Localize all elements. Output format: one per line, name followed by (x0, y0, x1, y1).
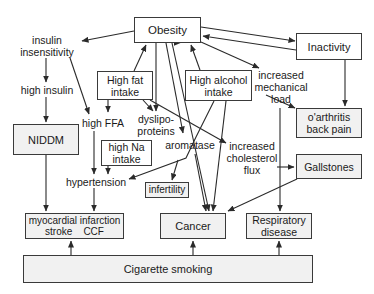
node-label: increased (258, 69, 304, 81)
arrow-obesity-insulin (82, 31, 134, 41)
node-label: NIDDM (28, 134, 64, 146)
node-increased-cholesterol-flux: increased cholesterol flux (226, 139, 278, 177)
node-label: cholesterol (227, 152, 278, 164)
node-gallstones: Gallstones (296, 154, 362, 179)
node-label: flux (244, 164, 260, 176)
node-label: infertility (149, 184, 186, 196)
node-label: intake (112, 153, 140, 165)
arrow-alcohol-cancer (213, 101, 226, 211)
node-label: mechanical (254, 81, 307, 93)
node-label: Obesity (148, 24, 187, 36)
node-label: Cigarette smoking (124, 263, 213, 275)
arrow-highfat-obesity (134, 45, 146, 71)
node-insulin-insensitivity: insulin insensitivity (12, 33, 82, 59)
node-label: intake (111, 86, 139, 98)
node-label: Inactivity (308, 41, 351, 53)
node-aromatase: aromatase (165, 138, 215, 152)
node-label: insensitivity (20, 46, 74, 58)
arrow-gallstones-cancer (228, 179, 297, 211)
arrow-obesity-inactivity (201, 27, 295, 41)
node-high-na-intake: high Na intake (101, 140, 152, 166)
arrow-obesity-mechload (201, 42, 259, 68)
node-high-ffa: high FFA (80, 116, 126, 130)
arrow-alcohol-obesity (191, 45, 200, 70)
node-label: High alcohol (190, 74, 248, 86)
node-label: increased (229, 140, 275, 152)
node-respiratory: Respiratory disease (246, 213, 312, 239)
node-label: intake (204, 86, 232, 98)
node-label: dyslipo- (138, 113, 174, 125)
node-label: proteins (137, 125, 174, 137)
node-label: high FFA (82, 117, 124, 129)
node-increased-mechanical-load: increased mechanical load (253, 68, 309, 106)
node-label: Cancer (175, 220, 210, 232)
node-cigarette-smoking: Cigarette smoking (23, 255, 313, 283)
node-niddm: NIDDM (13, 124, 79, 155)
arrow-aromatase-cancer (195, 154, 206, 211)
node-label: Respiratory (252, 214, 306, 226)
arrow-inactivity-obesity (203, 36, 296, 50)
node-label: hypertension (66, 176, 126, 188)
node-label: aromatase (165, 139, 215, 151)
node-inactivity: Inactivity (296, 33, 362, 60)
node-label: insulin (32, 34, 62, 46)
node-obesity: Obesity (134, 17, 201, 43)
node-label: load (271, 93, 291, 105)
node-label: back pain (307, 123, 352, 135)
node-label: Gallstones (304, 161, 354, 173)
node-myocardial: myocardial infarction stroke CCF (25, 213, 124, 239)
node-cancer: Cancer (160, 213, 226, 239)
node-label: o'arthritis (308, 111, 350, 123)
node-oarthritis: o'arthritis back pain (296, 108, 362, 138)
node-hypertension: hypertension (64, 175, 128, 189)
node-label: disease (261, 226, 297, 238)
node-label: high Na (108, 141, 144, 153)
node-label: myocardial infarction (29, 215, 121, 227)
node-high-insulin: high insulin (12, 83, 82, 97)
arrow-highfat-dyslipo (143, 100, 153, 111)
node-dyslipoproteins: dyslipo- proteins (134, 112, 178, 138)
node-high-alcohol-intake: High alcohol intake (185, 70, 252, 101)
node-label: High fat (107, 74, 143, 86)
node-infertility: infertility (145, 182, 189, 198)
node-label: high insulin (21, 84, 74, 96)
node-high-fat-intake: High fat intake (97, 71, 153, 100)
node-label: stroke CCF (45, 226, 104, 238)
